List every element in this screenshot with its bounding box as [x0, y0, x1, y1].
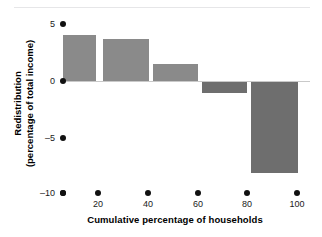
- redistribution-bar-chart: 5 0 –5 –10 20 40 60 80 100 Cumulative pe…: [0, 0, 322, 237]
- x-axis-title: Cumulative percentage of households: [40, 214, 310, 225]
- bar-60-80: [202, 82, 247, 93]
- y-axis-title-line-1: Redistribution: [12, 9, 24, 199]
- top-divider-rule: [14, 7, 310, 8]
- bar-20-40: [103, 39, 149, 81]
- x-tick-dot-0: [60, 190, 66, 196]
- bar-0-20: [63, 35, 96, 81]
- x-tick-dot-100: [294, 190, 300, 196]
- x-tick-dot-80: [244, 190, 250, 196]
- y-axis-title: Redistribution (percentage of total inco…: [12, 9, 35, 199]
- bar-40-60: [153, 64, 198, 81]
- y-axis-title-line-2: (percentage of total income): [23, 9, 35, 199]
- x-tick-label-20: 20: [83, 200, 113, 209]
- x-tick-label-40: 40: [133, 200, 163, 209]
- bar-80-100: [251, 82, 298, 173]
- y-tick-dot-neg5: [60, 135, 66, 141]
- x-tick-dot-40: [145, 190, 151, 196]
- x-tick-label-80: 80: [232, 200, 262, 209]
- x-tick-dot-60: [195, 190, 201, 196]
- y-tick-dot-5: [60, 21, 66, 27]
- y-tick-dot-0: [60, 78, 66, 84]
- x-tick-label-100: 100: [282, 200, 312, 209]
- plot-area: [63, 18, 310, 196]
- x-tick-dot-20: [95, 190, 101, 196]
- x-tick-label-60: 60: [183, 200, 213, 209]
